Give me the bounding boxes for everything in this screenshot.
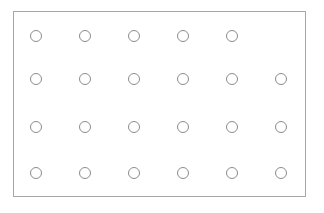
circle-marker: [30, 73, 42, 85]
circle-marker: [128, 121, 140, 133]
circle-marker: [30, 30, 42, 42]
circle-marker: [79, 73, 91, 85]
circle-marker: [79, 121, 91, 133]
circle-marker: [226, 167, 238, 179]
circle-marker: [79, 30, 91, 42]
circle-marker: [128, 167, 140, 179]
circle-marker-grid: [0, 0, 324, 213]
circle-marker: [30, 167, 42, 179]
circle-marker: [275, 121, 287, 133]
circle-marker: [177, 30, 189, 42]
circle-marker: [128, 30, 140, 42]
circle-marker: [226, 73, 238, 85]
circle-marker: [177, 167, 189, 179]
circle-marker: [226, 30, 238, 42]
diagram-canvas: [0, 0, 324, 213]
circle-marker: [275, 167, 287, 179]
circle-marker: [30, 121, 42, 133]
circle-marker: [128, 73, 140, 85]
circle-marker: [79, 167, 91, 179]
circle-marker: [226, 121, 238, 133]
circle-marker: [275, 73, 287, 85]
circle-marker: [177, 121, 189, 133]
circle-marker: [177, 73, 189, 85]
